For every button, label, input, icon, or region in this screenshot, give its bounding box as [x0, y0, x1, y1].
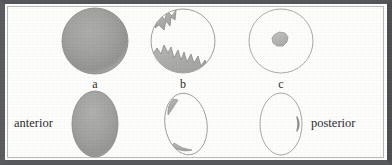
bottom-shape-c: [260, 93, 302, 155]
rim-mark-right: [297, 117, 299, 131]
figure-root: a b c anterior posterior: [0, 0, 392, 165]
bottom-shape-a: [72, 91, 118, 157]
top-shape-a: [62, 8, 128, 74]
top-shape-b: [151, 9, 215, 76]
top-shape-c: [249, 9, 313, 73]
figure-canvas: [0, 0, 392, 165]
label-anterior: anterior: [14, 117, 53, 130]
panel-label-b: b: [172, 78, 194, 90]
label-posterior: posterior: [311, 117, 355, 130]
panel-label-c: c: [270, 78, 292, 90]
bottom-shape-b: [160, 90, 211, 158]
panel-label-a: a: [84, 78, 106, 90]
